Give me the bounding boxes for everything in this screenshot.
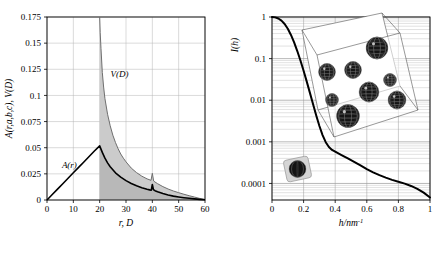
right-x-tick-label: 1 — [428, 204, 433, 214]
right-y-tick-labels: 10.10.010.0010.0001 — [241, 12, 266, 188]
left-y-tick-label: 0.1 — [30, 91, 41, 101]
inset-sphere — [384, 74, 397, 87]
right-y-tick-label: 0.001 — [246, 137, 266, 147]
right-y-tick-label: 1 — [262, 12, 267, 22]
left-x-axis-title: r, D — [119, 218, 133, 228]
right-y-tick-label: 0.01 — [250, 95, 266, 105]
left-y-axis-title: A(r,a,b,c), V(D) — [4, 79, 15, 139]
right-chart-svg: 00.20.40.60.81 10.10.010.0010.0001 h/nm-… — [222, 0, 444, 255]
inset-sphere — [337, 105, 360, 128]
left-y-tick-label: 0.05 — [25, 143, 41, 153]
single-particle-inset — [283, 156, 312, 183]
left-x-tick-label: 60 — [201, 204, 211, 214]
inset-sphere — [359, 82, 379, 102]
right-x-tick-label: 0.8 — [393, 204, 405, 214]
right-y-tick-label: 0.0001 — [241, 179, 266, 189]
left-y-tick-label: 0 — [37, 195, 42, 205]
two-panel-figure: 0102030405060 00.0250.050.0750.10.1250.1… — [0, 0, 444, 255]
inset-sphere — [326, 94, 339, 107]
right-y-tick-label: 0.1 — [255, 54, 266, 64]
right-x-tick-label: 0 — [270, 204, 275, 214]
inset-sphere — [345, 62, 362, 79]
right-x-tick-labels: 00.20.40.60.81 — [270, 204, 433, 214]
left-x-tick-label: 10 — [69, 204, 79, 214]
right-chart-panel: 00.20.40.60.81 10.10.010.0010.0001 h/nm-… — [222, 0, 444, 255]
left-x-tick-label: 50 — [174, 204, 184, 214]
left-x-tick-label: 20 — [95, 204, 105, 214]
left-curve-label: V(D) — [110, 69, 128, 79]
left-x-tick-label: 40 — [148, 204, 158, 214]
left-x-tick-labels: 0102030405060 — [45, 204, 210, 214]
right-x-axis-title: h/nm-1 — [339, 217, 363, 228]
left-y-tick-labels: 00.0250.050.0750.10.1250.150.175 — [21, 12, 42, 205]
left-chart-svg: 0102030405060 00.0250.050.0750.10.1250.1… — [0, 0, 222, 255]
left-x-tick-label: 30 — [122, 204, 132, 214]
inset-sphere — [366, 37, 388, 59]
left-y-tick-label: 0.175 — [21, 12, 42, 22]
right-x-tick-label: 0.2 — [298, 204, 309, 214]
left-y-tick-label: 0.15 — [25, 38, 41, 48]
left-y-tick-label: 0.075 — [21, 117, 42, 127]
right-x-tick-label: 0.6 — [361, 204, 373, 214]
inset-sphere — [319, 64, 336, 81]
right-y-axis-title: I(h) — [230, 38, 241, 53]
left-curve-label: A(r) — [61, 160, 77, 170]
left-chart-panel: 0102030405060 00.0250.050.0750.10.1250.1… — [0, 0, 222, 255]
right-x-tick-label: 0.4 — [330, 204, 342, 214]
left-y-tick-label: 0.025 — [21, 169, 42, 179]
left-x-tick-label: 0 — [45, 204, 50, 214]
particle-cluster-inset — [302, 13, 418, 137]
inset-sphere — [388, 91, 406, 109]
left-y-tick-label: 0.125 — [21, 64, 42, 74]
